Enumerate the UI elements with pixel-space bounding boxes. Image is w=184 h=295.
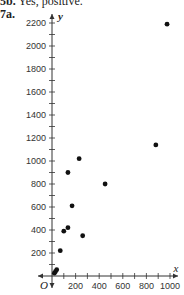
x-tick-label: 800 (139, 281, 154, 291)
origin-label: O (40, 279, 48, 291)
y-tick-label: 2200 (26, 18, 46, 28)
y-tick-label: 1600 (26, 87, 46, 97)
data-point (77, 156, 82, 161)
y-tick-label: 1800 (26, 64, 46, 74)
x-arrow-left-icon (38, 274, 43, 279)
y-tick-label: 1000 (26, 156, 46, 166)
data-point (66, 170, 71, 175)
y-arrow-down-icon (50, 283, 55, 288)
data-point (165, 22, 170, 27)
y-tick-label: 800 (31, 179, 46, 189)
data-point (66, 225, 71, 230)
y-tick-label: 200 (31, 248, 46, 258)
scatter-plot: 2004006008001000200400600800100012001400… (0, 0, 184, 295)
data-point (103, 182, 108, 187)
x-tick-label: 1000 (160, 281, 180, 291)
data-point (61, 229, 66, 234)
x-tick-label: 200 (68, 281, 83, 291)
data-point (153, 143, 158, 148)
x-axis-label: x (173, 262, 179, 274)
y-tick-label: 400 (31, 225, 46, 235)
data-point (52, 271, 57, 276)
data-point (80, 233, 85, 238)
x-tick-label: 600 (115, 281, 130, 291)
x-arrow-icon (173, 274, 178, 279)
y-axis-label: y (56, 10, 63, 22)
y-tick-label: 1200 (26, 133, 46, 143)
y-tick-label: 600 (31, 202, 46, 212)
data-point (58, 248, 63, 253)
y-tick-label: 2000 (26, 41, 46, 51)
y-tick-label: 1400 (26, 110, 46, 120)
x-tick-label: 400 (92, 281, 107, 291)
y-arrow-icon (50, 14, 55, 19)
data-point (70, 203, 75, 208)
